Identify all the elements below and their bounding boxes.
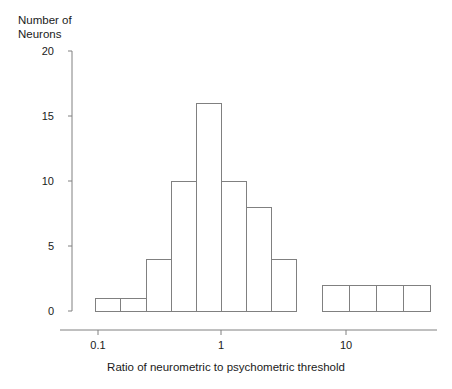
bar-9 — [323, 286, 350, 312]
bar-11 — [377, 286, 404, 312]
bar-1 — [96, 299, 121, 312]
plot-area — [0, 0, 452, 389]
bar-10 — [350, 286, 377, 312]
bar-group-4 — [172, 182, 197, 312]
bar-group-12 — [404, 286, 431, 312]
histogram-figure: Number ofNeurons 20 15 10 5 0 0.1 1 10 R… — [0, 0, 452, 389]
bar-group-9 — [323, 286, 350, 312]
bars-layer — [96, 104, 431, 312]
bar-group-1 — [96, 299, 121, 312]
bar-group-3 — [147, 260, 172, 312]
bar-6 — [222, 182, 247, 312]
bar-12 — [404, 286, 431, 312]
bar-2 — [121, 299, 147, 312]
bar-8 — [272, 260, 297, 312]
bar-group-2 — [121, 299, 147, 312]
bar-7 — [247, 208, 272, 312]
bar-3 — [147, 260, 172, 312]
bar-5 — [197, 104, 222, 312]
bar-group-8 — [272, 260, 297, 312]
bar-4 — [172, 182, 197, 312]
bar-group-5 — [197, 104, 222, 312]
bar-group-10 — [350, 286, 377, 312]
bar-group-6 — [222, 182, 247, 312]
bar-group-7 — [247, 208, 272, 312]
bar-group-11 — [377, 286, 404, 312]
